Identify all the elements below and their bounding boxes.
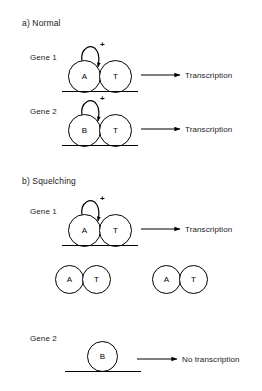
output-label-gene2-normal: Transcription [185, 125, 232, 134]
dna-baseline-gene1-normal [62, 91, 138, 92]
dna-baseline-gene1-squelch [62, 245, 138, 246]
protein-circle-b-gene2-normal: B [68, 114, 101, 147]
squelching-diagram: a) Normal Gene 1 + A T Transcription Gen… [0, 0, 262, 391]
plus-sign-gene1-normal: + [100, 41, 105, 49]
protein-circle-t-gene1-normal: T [99, 60, 132, 93]
output-label-gene2-squelch: No transcription [182, 355, 240, 364]
gene-label-gene2-normal: Gene 2 [30, 107, 57, 116]
circle-letter: T [113, 226, 118, 235]
gene-label-gene1-normal: Gene 1 [30, 53, 57, 62]
protein-circle-t-gene2-normal: T [99, 114, 132, 147]
circle-letter: B [100, 352, 106, 361]
circle-letter: A [67, 275, 73, 284]
protein-circle-t-gene1-squelch: T [99, 214, 132, 247]
circle-letter: A [164, 275, 170, 284]
circle-letter: B [82, 126, 88, 135]
free-complex-2-circle-t: T [179, 265, 208, 294]
dna-baseline-gene2-squelch [65, 371, 141, 372]
circle-letter: T [113, 126, 118, 135]
panel-b-label: b) Squelching [22, 176, 76, 186]
free-complex-2-circle-a: A [152, 265, 181, 294]
free-complex-1-circle-a: A [55, 265, 84, 294]
protein-circle-a-gene1-normal: A [68, 60, 101, 93]
output-label-gene1-normal: Transcription [185, 71, 232, 80]
protein-circle-a-gene1-squelch: A [68, 214, 101, 247]
circle-letter: T [191, 275, 196, 284]
panel-a-label: a) Normal [22, 18, 61, 28]
plus-sign-gene2-normal: + [100, 95, 105, 103]
circle-letter: A [82, 72, 88, 81]
circle-letter: T [113, 72, 118, 81]
protein-circle-b-gene2-squelch: B [87, 341, 118, 372]
dna-baseline-gene2-normal [62, 145, 138, 146]
output-label-gene1-squelch: Transcription [185, 225, 232, 234]
circle-letter: T [94, 275, 99, 284]
gene-label-gene2-squelch: Gene 2 [30, 334, 57, 343]
circle-letter: A [82, 226, 88, 235]
gene-label-gene1-squelch: Gene 1 [30, 207, 57, 216]
free-complex-1-circle-t: T [82, 265, 111, 294]
plus-sign-gene1-squelch: + [100, 195, 105, 203]
